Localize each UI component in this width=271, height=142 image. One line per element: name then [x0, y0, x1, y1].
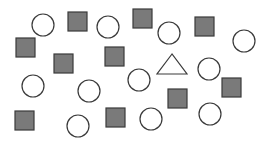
- square-shape: [168, 89, 187, 108]
- square-shape: [15, 111, 34, 130]
- square-shape: [105, 47, 124, 66]
- circle-shape: [97, 16, 119, 38]
- circle-shape: [233, 30, 255, 52]
- square-shape: [106, 108, 125, 127]
- square-shape: [54, 54, 73, 73]
- square-shape: [222, 78, 241, 97]
- square-shape: [195, 17, 214, 36]
- circle-shape: [128, 69, 150, 91]
- square-shape: [16, 38, 35, 57]
- square-shape: [68, 12, 87, 31]
- circle-shape: [67, 115, 89, 137]
- circle-shape: [32, 14, 54, 36]
- circle-shape: [22, 75, 44, 97]
- circle-shape: [78, 80, 100, 102]
- shapes-diagram: [0, 0, 271, 142]
- square-shape: [133, 9, 152, 28]
- circle-shape: [198, 58, 220, 80]
- circle-shape: [158, 22, 180, 44]
- circle-shape: [140, 108, 162, 130]
- circle-shape: [199, 103, 221, 125]
